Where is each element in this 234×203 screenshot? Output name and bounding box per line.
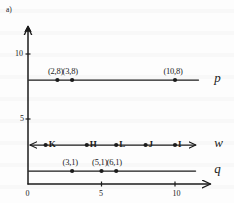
point-label-H: H xyxy=(90,140,97,149)
point-label-(3,1): (3,1) xyxy=(63,158,78,167)
point-label-(6,1): (6,1) xyxy=(107,158,122,167)
point-label-L: L xyxy=(119,140,125,149)
coordinate-plot xyxy=(0,0,234,203)
data-point xyxy=(114,143,118,147)
y-axis-arrowhead xyxy=(25,26,31,32)
x-tick-label: 5 xyxy=(99,190,103,198)
figure-sheet: a) 0510510p(2,8)(3,8)(10,8)wKHLJIq(3,1)(… xyxy=(0,0,234,203)
data-point xyxy=(144,143,148,147)
point-label-(10,8): (10,8) xyxy=(163,67,182,76)
x-tick-label: 10 xyxy=(173,190,181,198)
line-label-q: q xyxy=(214,162,221,175)
data-point xyxy=(70,78,74,82)
point-label-J: J xyxy=(149,140,154,149)
data-point xyxy=(44,143,48,147)
data-point xyxy=(173,143,177,147)
y-tick-label: 5 xyxy=(20,115,24,123)
data-point xyxy=(85,143,89,147)
data-point xyxy=(99,169,103,173)
point-label-I: I xyxy=(178,140,182,149)
point-label-K: K xyxy=(49,140,56,149)
data-point xyxy=(173,78,177,82)
point-label-(3,8): (3,8) xyxy=(63,67,78,76)
point-label-(2,8): (2,8) xyxy=(48,67,63,76)
point-label-(5,1): (5,1) xyxy=(92,158,107,167)
x-tick-label: 0 xyxy=(26,190,30,198)
line-label-w: w xyxy=(214,136,223,149)
y-tick-label: 10 xyxy=(15,50,23,58)
data-point xyxy=(114,169,118,173)
line-label-p: p xyxy=(214,71,221,84)
data-point xyxy=(70,169,74,173)
data-point xyxy=(55,78,59,82)
